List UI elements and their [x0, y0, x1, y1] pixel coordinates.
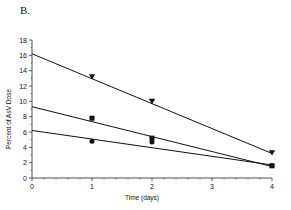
- circle-marker: [270, 163, 275, 168]
- line-chart: 02468101214161801234Time (days)Percent o…: [0, 0, 291, 210]
- y-tick-label: 14: [19, 67, 27, 74]
- y-tick-label: 10: [19, 98, 27, 105]
- y-tick-label: 4: [23, 144, 27, 151]
- x-tick-label: 3: [210, 183, 214, 190]
- x-tick-label: 1: [90, 183, 94, 190]
- triangle-marker: [149, 99, 155, 104]
- x-tick-label: 0: [30, 183, 34, 190]
- circle-marker: [90, 139, 95, 144]
- square-marker: [90, 116, 95, 121]
- x-tick-label: 4: [270, 183, 274, 190]
- triangle-marker: [89, 74, 95, 79]
- y-tick-label: 2: [23, 159, 27, 166]
- y-axis-title: Percent of AsV Dose: [5, 89, 12, 149]
- y-tick-label: 0: [23, 175, 27, 182]
- y-tick-label: 18: [19, 37, 27, 44]
- x-tick-label: 2: [150, 183, 154, 190]
- x-axis-title: Time (days): [125, 194, 159, 202]
- circle-marker: [150, 139, 155, 144]
- y-tick-label: 6: [23, 129, 27, 136]
- y-tick-label: 16: [19, 52, 27, 59]
- y-tick-label: 12: [19, 83, 27, 90]
- y-tick-label: 8: [23, 113, 27, 120]
